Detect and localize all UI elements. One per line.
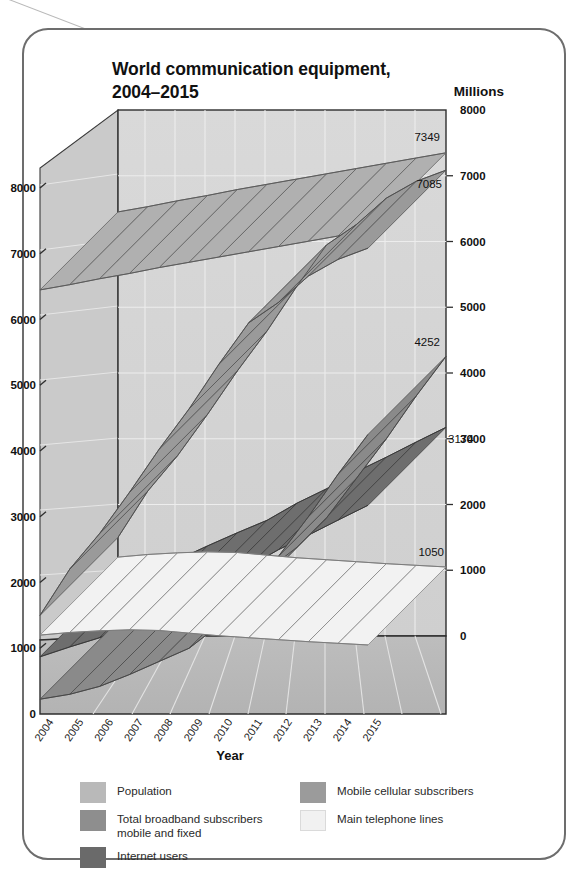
legend-column-right: Mobile cellular subscribersMain telephon… (300, 782, 510, 838)
right-axis-tick-label: 1000 (460, 564, 486, 576)
left-axis-tick-label: 2000 (10, 577, 36, 589)
left-axis-tick-label: 8000 (10, 182, 36, 194)
legend-label: Total broadband subscribersmobile and fi… (117, 810, 263, 840)
left-axis-tick-label: 3000 (10, 511, 36, 523)
x-axis-tick-label: 2015 (360, 716, 384, 743)
legend-label: Population (117, 782, 172, 798)
series-end-value-label: 1050 (418, 546, 444, 558)
x-axis-tick-label: 2005 (62, 716, 86, 743)
legend-swatch (300, 782, 326, 803)
x-axis-tick-label: 2008 (151, 716, 175, 743)
chart-legend: PopulationTotal broadband subscribersmob… (0, 782, 514, 872)
x-axis-tick-label: 2011 (241, 716, 264, 742)
x-axis-tick-label: 2004 (32, 716, 56, 743)
x-axis-tick-label: 2007 (121, 716, 145, 743)
legend-swatch (80, 810, 106, 831)
left-axis-tick-label: 0 (30, 708, 36, 720)
legend-item: Internet users (80, 847, 300, 868)
right-axis-tick-label: 6000 (460, 236, 486, 248)
legend-item: Total broadband subscribersmobile and fi… (80, 810, 300, 840)
legend-label: Mobile cellular subscribers (337, 782, 474, 798)
x-axis-tick-label: 2012 (271, 716, 295, 743)
x-axis-tick-label: 2009 (181, 716, 205, 743)
x-axis-tick-labels: 2004200520062007200820092010201120122013… (32, 716, 384, 743)
x-axis-tick-label: 2014 (330, 716, 354, 743)
legend-item: Population (80, 782, 300, 803)
right-axis-tick-label: 2000 (460, 499, 486, 511)
legend-label: Main telephone lines (337, 810, 443, 826)
series-end-value-label: 3174 (448, 433, 474, 445)
x-axis-tick-label: 2010 (211, 716, 235, 743)
left-axis-tick-label: 6000 (10, 314, 36, 326)
legend-item: Main telephone lines (300, 810, 510, 831)
right-axis-tick-label: 4000 (460, 367, 486, 379)
series-end-value-label: 4252 (414, 336, 440, 348)
legend-swatch (80, 847, 106, 868)
chart-plot-area: 010002000300040005000600070008000 010002… (0, 0, 514, 790)
left-axis-tick-label: 7000 (10, 248, 36, 260)
right-axis-tick-label: 0 (460, 630, 466, 642)
series-end-value-label: 7085 (416, 178, 442, 190)
legend-label: Internet users (117, 847, 188, 863)
left-axis-tick-label: 4000 (10, 445, 36, 457)
left-axis-tick-label: 5000 (10, 379, 36, 391)
right-axis-tick-label: 8000 (460, 104, 486, 116)
series-end-value-label: 7349 (414, 131, 440, 143)
legend-column-left: PopulationTotal broadband subscribersmob… (80, 782, 300, 875)
legend-swatch (80, 782, 106, 803)
legend-item: Mobile cellular subscribers (300, 782, 510, 803)
x-axis-tick-label: 2006 (92, 716, 116, 743)
x-axis-tick-label: 2013 (300, 716, 324, 743)
legend-swatch (300, 810, 326, 831)
left-axis-tick-label: 1000 (10, 642, 36, 654)
right-axis-tick-label: 5000 (460, 301, 486, 313)
right-axis: 010002000300040005000600070008000 (447, 104, 486, 642)
right-axis-tick-label: 7000 (460, 170, 486, 182)
